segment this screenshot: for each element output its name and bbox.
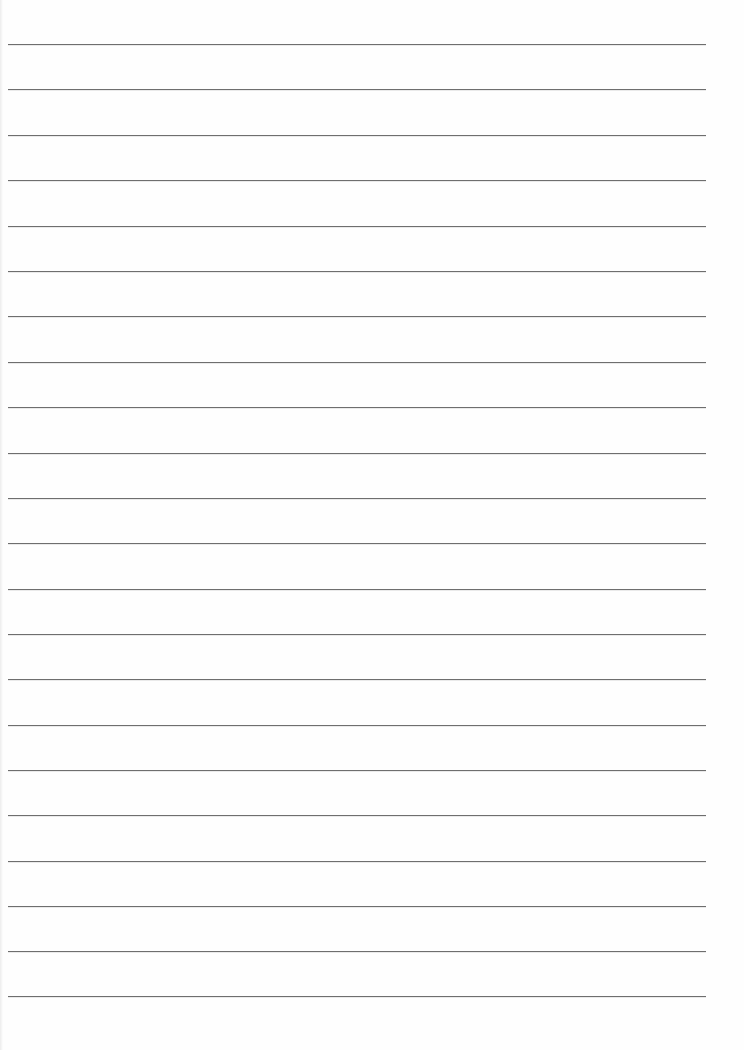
ruled-line (8, 407, 706, 408)
ruled-line (8, 634, 706, 635)
ruled-line (8, 271, 706, 272)
ruled-line (8, 226, 706, 227)
ruled-line (8, 725, 706, 726)
ruled-line (8, 770, 706, 771)
ruled-paper-page (0, 0, 744, 1050)
ruled-line (8, 543, 706, 544)
ruled-line (8, 44, 706, 45)
ruled-line (8, 89, 706, 90)
ruled-line (8, 180, 706, 181)
ruled-line (8, 679, 706, 680)
ruled-line (8, 951, 706, 952)
ruled-line (8, 316, 706, 317)
ruled-line (8, 996, 706, 997)
ruled-line (8, 362, 706, 363)
ruled-line (8, 498, 706, 499)
ruled-line (8, 589, 706, 590)
ruled-line (8, 861, 706, 862)
ruled-line (8, 135, 706, 136)
ruled-line (8, 453, 706, 454)
ruled-line (8, 906, 706, 907)
ruled-line (8, 815, 706, 816)
